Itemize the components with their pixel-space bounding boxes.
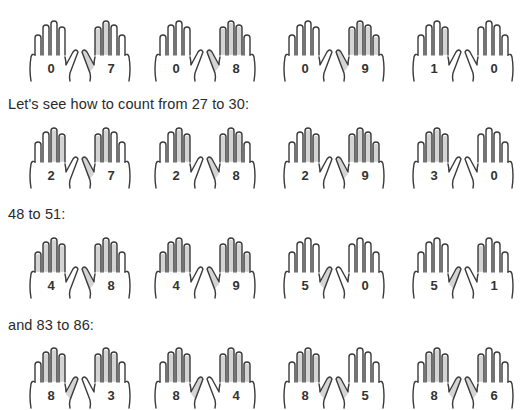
right-hand: 6 [462, 344, 514, 410]
left-hand: 4 [29, 234, 81, 300]
right-hand: 0 [333, 234, 385, 300]
finger-count-digit: 4 [41, 278, 61, 293]
right-hand: 1 [462, 234, 514, 300]
hand-pair: 0 8 [154, 17, 258, 83]
hands-row-1: 0 7 0 8 0 9 1 0 [0, 17, 521, 83]
finger-count-digit: 4 [226, 388, 246, 403]
right-hand: 0 [462, 17, 514, 83]
hand-pair: 2 9 [283, 124, 387, 190]
hand-pair: 8 6 [412, 344, 516, 410]
right-hand: 8 [204, 17, 256, 83]
finger-count-digit: 2 [295, 168, 315, 183]
right-hand: 8 [204, 124, 256, 190]
left-hand: 0 [154, 17, 206, 83]
right-hand: 5 [333, 344, 385, 410]
finger-count-digit: 8 [166, 388, 186, 403]
left-hand: 0 [283, 17, 335, 83]
finger-count-digit: 8 [101, 278, 121, 293]
finger-count-digit: 0 [484, 168, 504, 183]
hands-row-2: 2 7 2 8 2 9 3 0 [0, 124, 521, 190]
finger-count-digit: 3 [424, 168, 444, 183]
hand-pair: 2 7 [29, 124, 133, 190]
finger-count-digit: 8 [226, 61, 246, 76]
caption-count-48-to-51: 48 to 51: [8, 206, 65, 222]
caption-count-27-to-30: Let's see how to count from 27 to 30: [8, 96, 249, 112]
left-hand: 5 [412, 234, 464, 300]
right-hand: 3 [79, 344, 131, 410]
finger-count-digit: 8 [41, 388, 61, 403]
left-hand: 8 [412, 344, 464, 410]
right-hand: 9 [204, 234, 256, 300]
hand-pair: 5 1 [412, 234, 516, 300]
right-hand: 0 [462, 124, 514, 190]
finger-count-digit: 2 [166, 168, 186, 183]
right-hand: 4 [204, 344, 256, 410]
hand-pair: 8 4 [154, 344, 258, 410]
hand-pair: 1 0 [412, 17, 516, 83]
right-hand: 7 [79, 124, 131, 190]
left-hand: 4 [154, 234, 206, 300]
left-hand: 8 [154, 344, 206, 410]
left-hand: 0 [29, 17, 81, 83]
finger-count-digit: 0 [166, 61, 186, 76]
hand-pair: 3 0 [412, 124, 516, 190]
finger-count-digit: 8 [424, 388, 444, 403]
finger-count-digit: 9 [355, 61, 375, 76]
hands-row-4: 8 3 8 4 8 5 8 6 [0, 344, 521, 410]
finger-count-digit: 5 [424, 278, 444, 293]
caption-count-83-to-86: and 83 to 86: [8, 317, 94, 333]
right-hand: 9 [333, 17, 385, 83]
left-hand: 2 [154, 124, 206, 190]
right-hand: 8 [79, 234, 131, 300]
finger-count-digit: 1 [424, 61, 444, 76]
finger-count-digit: 8 [226, 168, 246, 183]
finger-count-digit: 0 [41, 61, 61, 76]
hand-pair: 0 9 [283, 17, 387, 83]
hand-pair: 4 9 [154, 234, 258, 300]
left-hand: 3 [412, 124, 464, 190]
finger-count-digit: 0 [355, 278, 375, 293]
finger-count-digit: 3 [101, 388, 121, 403]
finger-count-digit: 9 [355, 168, 375, 183]
finger-count-digit: 0 [484, 61, 504, 76]
hand-pair: 8 3 [29, 344, 133, 410]
hands-row-3: 4 8 4 9 5 0 5 1 [0, 234, 521, 300]
finger-count-digit: 5 [295, 278, 315, 293]
right-hand: 7 [79, 17, 131, 83]
left-hand: 8 [29, 344, 81, 410]
finger-count-digit: 8 [295, 388, 315, 403]
hand-pair: 2 8 [154, 124, 258, 190]
finger-count-digit: 6 [484, 388, 504, 403]
left-hand: 5 [283, 234, 335, 300]
finger-count-digit: 2 [41, 168, 61, 183]
left-hand: 2 [29, 124, 81, 190]
finger-count-digit: 7 [101, 61, 121, 76]
hand-pair: 5 0 [283, 234, 387, 300]
left-hand: 2 [283, 124, 335, 190]
finger-count-digit: 9 [226, 278, 246, 293]
finger-count-digit: 5 [355, 388, 375, 403]
finger-count-digit: 7 [101, 168, 121, 183]
finger-count-digit: 0 [295, 61, 315, 76]
left-hand: 8 [283, 344, 335, 410]
finger-count-digit: 1 [484, 278, 504, 293]
left-hand: 1 [412, 17, 464, 83]
right-hand: 9 [333, 124, 385, 190]
hand-pair: 8 5 [283, 344, 387, 410]
hand-pair: 4 8 [29, 234, 133, 300]
finger-count-digit: 4 [166, 278, 186, 293]
hand-pair: 0 7 [29, 17, 133, 83]
